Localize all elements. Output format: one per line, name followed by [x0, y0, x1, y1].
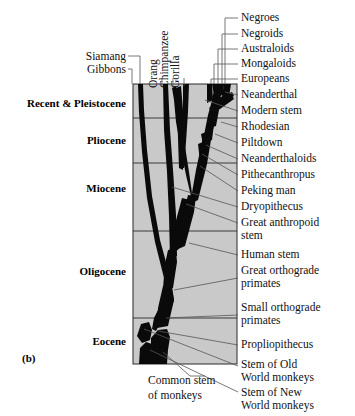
taxon-label-negroids: Negroids: [241, 27, 283, 40]
taxon-label-great-anthropoid-stem: Great anthropoid: [241, 216, 319, 229]
taxon-label-common-stem-of-monkeys-line2: of monkeys: [148, 389, 202, 402]
taxon-label-great-orthograde-primates-line2: primates: [241, 277, 281, 290]
taxon-label-neanderthal: Neanderthal: [241, 88, 297, 101]
epoch-label-eocene: Eocene: [8, 335, 126, 347]
taxon-label-great-orthograde-primates: Great orthograde: [241, 264, 319, 277]
taxon-label-stem-of-new-world-monkeys-line2: World monkeys: [241, 399, 314, 412]
taxon-label-peking-man: Peking man: [241, 184, 296, 197]
epoch-label-miocene: Miocene: [8, 182, 126, 194]
epoch-label-recent-pleistocene: Recent & Pleistocene: [8, 97, 126, 109]
taxon-label-neanderthaloids: Neanderthaloids: [241, 152, 316, 165]
epoch-label-pliocene: Pliocene: [8, 134, 126, 146]
taxon-label-europeans: Europeans: [241, 72, 290, 85]
panel-tag: (b): [22, 352, 35, 364]
taxon-label-stem-of-old-world-monkeys-line2: World monkeys: [241, 371, 314, 384]
taxon-label-gorilla: Gorilla: [169, 55, 181, 88]
evolution-phylogeny-figure: Recent & Pleistocene Pliocene Miocene Ol…: [0, 0, 355, 416]
taxon-label-stem-of-new-world-monkeys: Stem of New: [241, 386, 302, 399]
taxon-label-propliopithecus: Propliopithecus: [241, 338, 313, 351]
epoch-label-oligocene: Oligocene: [8, 265, 126, 277]
taxon-label-human-stem: Human stem: [241, 248, 299, 261]
taxon-label-dryopithecus: Dryopithecus: [241, 200, 303, 213]
taxon-label-common-stem-of-monkeys: Common stem: [148, 374, 215, 387]
taxon-label-negroes: Negroes: [241, 11, 279, 24]
taxon-label-piltdown: Piltdown: [241, 136, 283, 149]
taxon-label-stem-of-old-world-monkeys: Stem of Old: [241, 358, 297, 371]
taxon-label-gibbons: Gibbons: [54, 63, 126, 76]
taxon-label-pithecanthropus: Pithecanthropus: [241, 168, 315, 181]
taxon-label-australoids: Australoids: [241, 42, 294, 55]
taxon-label-siamang: Siamang: [54, 50, 126, 63]
taxon-label-modern-stem: Modern stem: [241, 104, 302, 117]
taxon-label-small-orthograde-primates: Small orthograde: [241, 301, 321, 314]
taxon-label-great-anthropoid-stem-line2: stem: [241, 229, 263, 242]
taxon-label-rhodesian: Rhodesian: [241, 120, 290, 133]
taxon-label-mongaloids: Mongaloids: [241, 57, 296, 70]
taxon-label-small-orthograde-primates-line2: primates: [241, 314, 281, 327]
